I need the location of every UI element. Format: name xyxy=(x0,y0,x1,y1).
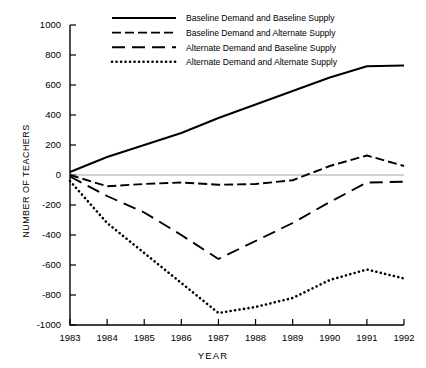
x-axis-title: YEAR xyxy=(0,350,426,361)
series-line-3 xyxy=(70,181,404,313)
y-axis-tick-label: 0 xyxy=(56,169,61,180)
y-axis-tick-label: -800 xyxy=(42,289,61,300)
x-axis-tick-label: 1983 xyxy=(59,332,80,343)
y-axis-tick-label: 800 xyxy=(45,49,61,60)
y-axis-tick-label: -200 xyxy=(42,199,61,210)
y-axis-tick-label: -400 xyxy=(42,229,61,240)
y-axis-tick-label: 600 xyxy=(45,79,61,90)
series-line-0 xyxy=(70,66,404,173)
y-axis-tick-label: 1000 xyxy=(40,19,61,30)
x-axis-tick-label: 1991 xyxy=(356,332,377,343)
x-axis-tick-label: 1986 xyxy=(171,332,192,343)
x-axis-tick-label: 1990 xyxy=(319,332,340,343)
line-chart-plot: -1000-800-600-400-2000200400600800100019… xyxy=(0,0,426,368)
y-axis-tick-label: -600 xyxy=(42,259,61,270)
x-axis-tick-label: 1984 xyxy=(97,332,118,343)
legend-label-0: Baseline Demand and Baseline Supply xyxy=(186,13,335,23)
x-axis-tick-label: 1988 xyxy=(245,332,266,343)
x-axis-tick-label: 1987 xyxy=(208,332,229,343)
chart-container: -1000-800-600-400-2000200400600800100019… xyxy=(0,0,426,368)
series-line-1 xyxy=(70,156,404,187)
legend-label-1: Baseline Demand and Alternate Supply xyxy=(186,28,336,38)
legend-label-2: Alternate Demand and Baseline Supply xyxy=(186,43,337,53)
legend-label-3: Alternate Demand and Alternate Supply xyxy=(186,57,338,67)
y-axis-tick-label: 400 xyxy=(45,109,61,120)
x-axis-tick-label: 1989 xyxy=(282,332,303,343)
y-axis-title: NUMBER OF TEACHERS xyxy=(21,111,31,251)
x-axis-tick-label: 1985 xyxy=(134,332,155,343)
x-axis-tick-label: 1992 xyxy=(393,332,414,343)
series-line-2 xyxy=(70,177,404,260)
y-axis-tick-label: -1000 xyxy=(37,319,61,330)
y-axis-tick-label: 200 xyxy=(45,139,61,150)
